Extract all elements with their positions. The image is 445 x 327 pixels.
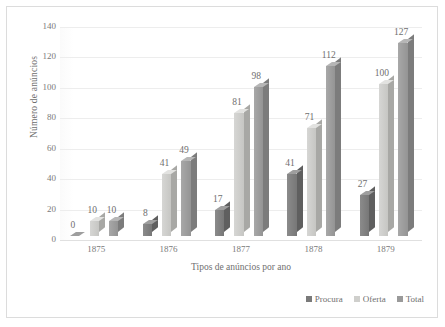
bar-group-bars: 4171112	[284, 27, 342, 240]
bar-side-face	[388, 75, 394, 232]
bar-slot: 81	[231, 27, 250, 240]
bar-value-label: 81	[223, 97, 250, 108]
y-axis-tick-label: 80	[16, 112, 56, 123]
bar-front-face	[181, 161, 190, 236]
bar-slot: 127	[395, 27, 414, 240]
chart-figure: Número de anúncios 020406080100120140 01…	[0, 0, 445, 327]
bar-slot: 49	[178, 27, 197, 240]
bar-group: 01010	[60, 27, 132, 240]
bar-value-label: 98	[243, 71, 270, 82]
y-axis-tick-label: 20	[16, 204, 56, 215]
bar-value-label: 49	[170, 145, 197, 156]
bar-front-face	[143, 224, 152, 236]
x-axis-tick-label: 1877	[205, 244, 277, 254]
bar-group: 4171112	[277, 27, 349, 240]
x-axis-tick-labels: 18751876187718781879	[60, 244, 422, 254]
bar-value-label: 71	[296, 112, 323, 123]
y-axis-tick-label: 60	[16, 143, 56, 154]
legend-item[interactable]: Procura	[306, 294, 343, 304]
bar-side-face	[263, 78, 269, 232]
bar[interactable]	[360, 195, 369, 236]
bar-side-face	[316, 119, 322, 232]
bar[interactable]	[215, 210, 224, 236]
y-axis-tick-label: 40	[16, 173, 56, 184]
bar-slot: 41	[159, 27, 178, 240]
bar-group: 84149	[132, 27, 204, 240]
legend-item[interactable]: Total	[397, 294, 424, 304]
bar-front-face	[254, 87, 263, 236]
bar-group-bars: 27100127	[357, 27, 415, 240]
x-axis-tick-label: 1878	[277, 244, 349, 254]
bar-slot: 27	[357, 27, 376, 240]
y-axis-tick-label: 120	[16, 51, 56, 62]
bar-front-face	[90, 221, 99, 236]
bar-slot: 10	[106, 27, 125, 240]
bar-side-face	[297, 165, 303, 232]
bar-front-face	[215, 210, 224, 236]
x-axis-title: Tipos de anúncios por ano	[60, 262, 422, 272]
chart-legend: ProcuraOfertaTotal	[0, 294, 438, 304]
bar-slot: 41	[284, 27, 303, 240]
bar[interactable]	[143, 224, 152, 236]
bar[interactable]	[254, 87, 263, 236]
bar[interactable]	[162, 174, 171, 236]
bar-front-face	[109, 221, 118, 236]
x-axis-tick-label: 1875	[60, 244, 132, 254]
bar[interactable]	[234, 113, 243, 236]
bar[interactable]	[287, 174, 296, 236]
bar-front-face	[326, 66, 335, 236]
bar[interactable]	[398, 43, 407, 236]
bar-slot: 112	[323, 27, 342, 240]
bar[interactable]	[109, 221, 118, 236]
bar-front-face	[287, 174, 296, 236]
bar-side-face	[244, 104, 250, 232]
y-axis-tick-label: 0	[16, 234, 56, 245]
bar-group-bars: 84149	[140, 27, 198, 240]
bar-front-face	[307, 128, 316, 236]
legend-item-label: Oferta	[363, 294, 386, 304]
bar-side-face	[191, 153, 197, 232]
x-axis-tick-label: 1876	[132, 244, 204, 254]
bar-front-face	[162, 174, 171, 236]
bar[interactable]	[379, 84, 388, 236]
bar-value-label: 27	[349, 179, 376, 190]
axis-baseline	[60, 240, 422, 241]
bar-side-face	[335, 57, 341, 232]
bar[interactable]	[307, 128, 316, 236]
x-axis-tick-label: 1879	[350, 244, 422, 254]
y-axis-tick-label: 100	[16, 82, 56, 93]
bar-group: 178198	[205, 27, 277, 240]
bar-group-bars: 01010	[67, 27, 125, 240]
bar-slot: 98	[251, 27, 270, 240]
bar[interactable]	[181, 161, 190, 236]
plot-area: 0101084149178198417111227100127	[60, 27, 422, 240]
bar-value-label: 100	[368, 68, 395, 79]
legend-swatch-icon	[306, 296, 312, 302]
bar-value-label: 112	[315, 50, 342, 61]
legend-item[interactable]: Oferta	[354, 294, 386, 304]
bar[interactable]	[90, 221, 99, 236]
bar-value-label: 41	[276, 158, 303, 169]
y-axis-tick-label: 140	[16, 21, 56, 32]
bar-slot: 8	[140, 27, 159, 240]
bar-groups: 0101084149178198417111227100127	[60, 27, 422, 240]
bar-value-label: 17	[204, 194, 231, 205]
bar-side-face	[171, 165, 177, 232]
legend-swatch-icon	[354, 296, 360, 302]
bar[interactable]	[326, 66, 335, 236]
bar-group: 27100127	[350, 27, 422, 240]
legend-item-label: Total	[406, 294, 424, 304]
bar-value-label: 127	[387, 27, 414, 38]
bar-slot: 100	[376, 27, 395, 240]
bar-value-label: 0	[59, 220, 86, 231]
bar-side-face	[408, 34, 414, 232]
bar-value-label: 8	[132, 208, 159, 219]
bar-front-face	[360, 195, 369, 236]
bar-value-label: 41	[151, 158, 178, 169]
bar-front-face	[234, 113, 243, 236]
legend-swatch-icon	[397, 296, 403, 302]
legend-item-label: Procura	[315, 294, 343, 304]
bar-slot: 17	[212, 27, 231, 240]
bar-value-label: 10	[98, 205, 125, 216]
bar-top-face	[70, 232, 85, 236]
